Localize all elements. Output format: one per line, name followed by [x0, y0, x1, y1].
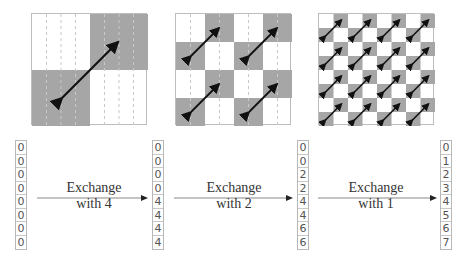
value-cell: 0: [16, 182, 26, 196]
value-cell: 0: [16, 236, 26, 250]
value-cell: 0: [298, 155, 308, 169]
value-cell: 6: [298, 236, 308, 250]
value-cell: 2: [298, 168, 308, 182]
step-label-3-line2: with 1: [326, 196, 426, 212]
grid-exchange-4-graphic: [32, 14, 148, 126]
value-cell: 3: [441, 182, 451, 196]
value-column-after-1: 01234567: [440, 140, 452, 250]
value-cell: 0: [298, 141, 308, 155]
value-cell: 2: [298, 182, 308, 196]
value-cell: 2: [441, 168, 451, 182]
value-cell: 4: [153, 236, 163, 250]
value-cell: 4: [153, 222, 163, 236]
value-cell: 6: [441, 222, 451, 236]
step-label-3-line1: Exchange: [326, 180, 426, 196]
step-label-3: Exchange with 1: [326, 180, 426, 212]
grid-exchange-2: [175, 13, 291, 125]
value-cell: 0: [153, 155, 163, 169]
grid-exchange-1-graphic: [319, 14, 435, 126]
value-cell: 0: [153, 141, 163, 155]
grid-exchange-1: [318, 13, 434, 125]
value-cell: 0: [441, 141, 451, 155]
value-column-initial: 00000000: [15, 140, 27, 250]
value-cell: 4: [153, 209, 163, 223]
step-label-2-line2: with 2: [184, 196, 284, 212]
value-cell: 4: [441, 195, 451, 209]
value-cell: 0: [16, 222, 26, 236]
step-label-2-line1: Exchange: [184, 180, 284, 196]
value-cell: 1: [441, 155, 451, 169]
step-label-1-line2: with 4: [44, 196, 144, 212]
value-cell: 0: [16, 209, 26, 223]
value-cell: 5: [441, 209, 451, 223]
step-label-1: Exchange with 4: [44, 180, 144, 212]
value-cell: 0: [153, 182, 163, 196]
value-cell: 0: [153, 168, 163, 182]
value-column-after-2: 00224466: [297, 140, 309, 250]
grid-exchange-2-graphic: [176, 14, 292, 126]
value-cell: 0: [16, 141, 26, 155]
value-cell: 0: [16, 195, 26, 209]
value-cell: 4: [298, 209, 308, 223]
value-column-after-4: 00004444: [152, 140, 164, 250]
grid-exchange-4: [31, 13, 147, 125]
value-cell: 4: [153, 195, 163, 209]
value-cell: 6: [298, 222, 308, 236]
value-cell: 7: [441, 236, 451, 250]
step-label-1-line1: Exchange: [44, 180, 144, 196]
value-cell: 4: [298, 195, 308, 209]
value-cell: 0: [16, 155, 26, 169]
value-cell: 0: [16, 168, 26, 182]
step-label-2: Exchange with 2: [184, 180, 284, 212]
